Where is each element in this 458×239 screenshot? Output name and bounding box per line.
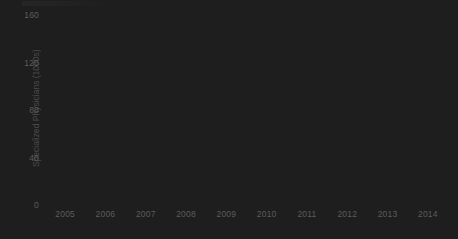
bar-2010 <box>253 61 281 205</box>
bar-2008 <box>172 67 200 205</box>
x-tick-label-2009: 2009 <box>206 210 246 219</box>
y-tick-label-160: 160 <box>13 11 39 20</box>
bar-2012 <box>333 52 361 205</box>
bar-slot-2005 <box>45 15 85 205</box>
bar-2007 <box>132 76 160 205</box>
x-tick-label-2007: 2007 <box>126 210 166 219</box>
bar-slot-2014 <box>408 15 448 205</box>
y-tick-label-120: 120 <box>13 59 39 68</box>
bar-2005 <box>51 83 79 205</box>
bar-slot-2011 <box>287 15 327 205</box>
bar-series <box>45 15 448 205</box>
x-axis-tick-labels: 2005 2006 2007 2008 2009 2010 2011 2012 … <box>45 210 448 226</box>
bar-chart: Specialized Physicians (1000s) 160 120 8… <box>0 0 458 239</box>
x-tick-label-2008: 2008 <box>166 210 206 219</box>
plot-area <box>45 15 448 205</box>
bar-slot-2009 <box>206 15 246 205</box>
y-tick-label-0: 0 <box>13 201 39 210</box>
y-tick-label-40: 40 <box>13 154 39 163</box>
bar-slot-2007 <box>126 15 166 205</box>
x-tick-label-2012: 2012 <box>327 210 367 219</box>
bar-2013 <box>373 42 401 205</box>
bar-2011 <box>293 53 321 205</box>
bar-2006 <box>91 73 119 205</box>
y-tick-label-80: 80 <box>13 106 39 115</box>
x-tick-label-2013: 2013 <box>367 210 407 219</box>
x-tick-label-2010: 2010 <box>247 210 287 219</box>
bar-2009 <box>212 63 240 206</box>
bar-slot-2008 <box>166 15 206 205</box>
bar-slot-2010 <box>247 15 287 205</box>
x-tick-label-2005: 2005 <box>45 210 85 219</box>
bar-slot-2006 <box>85 15 125 205</box>
x-tick-label-2014: 2014 <box>408 210 448 219</box>
x-tick-label-2011: 2011 <box>287 210 327 219</box>
bar-slot-2012 <box>327 15 367 205</box>
bar-slot-2013 <box>367 15 407 205</box>
x-tick-label-2006: 2006 <box>85 210 125 219</box>
bar-2014 <box>414 25 442 206</box>
y-axis-tick-labels: 160 120 80 40 0 <box>9 15 39 205</box>
cropped-title-artifact <box>22 1 172 6</box>
